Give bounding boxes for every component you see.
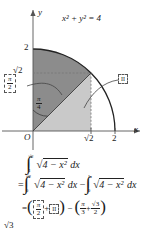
y-axis-label: y [38,8,42,17]
page-root: x² + y² = 4 y x O 2 √2 √2 2 π 4 π 2 [0,0,146,240]
open-paren-3b: ( [75,197,81,217]
differential-2a: dx [68,179,77,190]
angle-label-pi-over-4: π 4 [36,96,42,111]
callout-region-label: II [118,74,128,84]
close-paren-3: ) [59,197,65,217]
figure-quarter-circle: x² + y² = 4 y x O 2 √2 √2 2 π 4 π 2 [0,0,146,150]
close-paren-3b: ) [100,197,106,217]
integral-upper-2b: 1 [88,174,91,179]
math-line-2: =∫√20√4 − x² dx −∫10√4 − x² dx [18,174,136,190]
frac3-den: 2 [91,208,100,216]
differential-2b: dx [127,179,136,190]
math-line-3: =(π2+II) − (π3+√32) [22,196,106,219]
math-line-4-partial: √3 [4,220,13,230]
integrand-1: 4 − x² [43,158,68,170]
boxed-frac-pi-over-2[interactable]: π2 [33,200,45,219]
differential-1: dx [70,159,79,170]
callout-sector-num: π [7,76,13,83]
callout-box-pi-over-2[interactable]: π 2 [4,74,16,93]
callout-sector-den: 2 [7,83,13,91]
math-derivation: ∫√21√4 − x² dx =∫√20√4 − x² dx −∫10√4 − … [0,150,146,240]
angle-num: π [36,96,42,103]
x-axis-label: x [134,125,138,134]
boxed-frac-num: π [36,202,42,209]
integral-upper-1: √2 [28,154,33,159]
integrand-2b: 4 − x² [99,178,124,190]
y-axis-arrow [30,10,35,16]
origin-label: O [24,133,31,142]
radical-sign-1: √ [36,158,42,170]
x-tick-label-sqrt2: √2 [84,134,93,143]
integrand-2a: 4 − x² [40,178,65,190]
x-tick-label-2: 2 [112,134,117,143]
integral-lower-1: 1 [28,168,33,173]
integral-lower-2b: 0 [88,188,91,193]
frac3-num: √3 [91,201,100,208]
callout-box-region-two[interactable]: II [118,74,128,84]
integral-upper-2a: √2 [26,174,31,179]
y-tick-label-2: 2 [24,43,29,52]
curve-equation-label: x² + y² = 4 [62,14,101,23]
minus-sign-3: − [67,203,72,213]
boxed-roman-two[interactable]: II [49,204,59,214]
math-line-1: ∫√21√4 − x² dx [26,154,80,170]
boxed-frac-den: 2 [36,209,42,217]
open-paren-3: ( [27,197,33,217]
angle-den: 4 [36,103,42,111]
integral-lower-2a: 0 [26,188,31,193]
